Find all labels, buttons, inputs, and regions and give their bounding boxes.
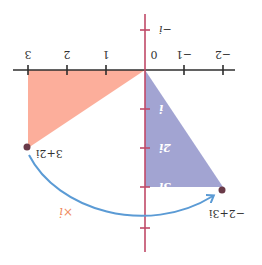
point-label-3-plus-2i: 3+2i <box>36 147 63 160</box>
complex-plane: −2 −1 0 1 2 3 −i i 2i 3i ×i 3+2i −2+3i <box>0 0 262 265</box>
tick-label-2: 2 <box>64 48 71 61</box>
tick-label-neg1: −1 <box>176 48 192 61</box>
tick-label-i: i <box>159 102 163 115</box>
multiply-by-i-label: ×i <box>59 205 73 219</box>
complex-plane-diagram: −2 −1 0 1 2 3 −i i 2i 3i ×i 3+2i −2+3i <box>0 0 262 265</box>
tick-label-1: 1 <box>103 48 110 61</box>
point-3-plus-2i <box>24 144 31 151</box>
tick-label-3i: 3i <box>159 180 171 193</box>
point-label-neg2-plus-3i: −2+3i <box>209 207 245 220</box>
tick-label-3: 3 <box>25 48 32 61</box>
tick-label-neg2: −2 <box>215 48 231 61</box>
tick-label-0: 0 <box>151 48 158 61</box>
point-neg2-plus-3i <box>219 187 226 194</box>
original-triangle <box>28 70 145 148</box>
rotated-triangle <box>145 70 223 187</box>
tick-label-neg-i: −i <box>159 23 172 36</box>
tick-label-2i: 2i <box>159 141 172 154</box>
